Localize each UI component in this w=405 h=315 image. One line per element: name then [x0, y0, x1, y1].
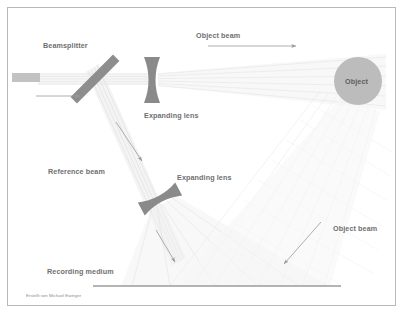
label-object: Object — [345, 77, 368, 86]
label-expanding-lens-2: Expanding lens — [177, 173, 232, 182]
label-object-beam-top: Object beam — [196, 31, 240, 40]
credit-text: Erstellt von Michael Ewinger — [26, 293, 81, 298]
label-expanding-lens-1: Expanding lens — [144, 111, 199, 120]
label-reference-beam: Reference beam — [48, 167, 105, 176]
laser-source — [12, 73, 40, 82]
diagram-canvas: Beamsplitter Object beam Expanding lens … — [0, 0, 405, 315]
label-object-beam-bottom: Object beam — [333, 224, 377, 233]
label-beamsplitter: Beamsplitter — [43, 41, 88, 50]
label-recording-medium: Recording medium — [47, 267, 114, 276]
object-scatter-cone — [175, 98, 380, 286]
